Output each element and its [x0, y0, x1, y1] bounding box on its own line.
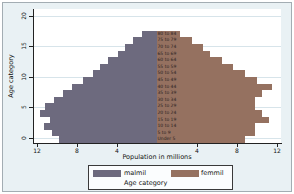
y-tick-label-5: 5 [20, 97, 28, 117]
age-category-label: 20 to 24 [158, 110, 177, 117]
legend-box: malmil femmil Age category [88, 165, 233, 190]
age-category-label: 55 to 59 [158, 64, 177, 71]
age-category-label: 50 to 54 [158, 70, 177, 77]
age-category-label: 65 to 69 [158, 51, 177, 58]
male-bar-20-to-24 [40, 110, 157, 117]
age-category-label: 15 to 19 [158, 117, 177, 124]
male-bar-65-to-69 [118, 51, 157, 58]
legend-swatch-femmil [171, 170, 199, 177]
y-tick-label-15: 15 [20, 36, 28, 56]
age-category-label: Under 5 [158, 136, 176, 143]
x-axis-line [33, 143, 282, 144]
legend-swatch-malmil [93, 170, 121, 177]
age-category-label: 35 to 39 [158, 90, 177, 97]
legend-label-femmil: femmil [201, 169, 224, 177]
male-bar-25-to-29 [45, 103, 157, 110]
x-axis-title: Population in millions [57, 153, 257, 161]
age-category-label: 10 to 14 [158, 123, 177, 130]
age-category-label: 45 to 49 [158, 77, 177, 84]
y-axis-line [33, 9, 34, 144]
population-pyramid-chart: Under 55 to 910 to 1415 to 1920 to 2425 … [0, 0, 294, 194]
female-bar-5-to-9 [157, 130, 255, 137]
age-category-label: 75 to 79 [158, 37, 177, 44]
age-category-label: 30 to 34 [158, 97, 177, 104]
y-tickmark-5 [29, 107, 33, 108]
age-category-label: 40 to 44 [158, 84, 177, 91]
male-bar-30-to-34 [54, 97, 157, 104]
male-bar-55-to-59 [100, 64, 157, 71]
age-category-label: 5 to 9 [158, 130, 171, 137]
male-bar-35-to-39 [63, 90, 157, 97]
male-bar-45-to-49 [83, 77, 157, 84]
y-tickmark-15 [29, 46, 33, 47]
y-axis-title: Age category [6, 46, 16, 106]
age-category-label: 80 to 84 [158, 31, 177, 38]
y-tick-label-0: 0 [20, 128, 28, 148]
male-bar-50-to-54 [93, 70, 157, 77]
y-tick-label-10: 10 [20, 67, 28, 87]
male-bar-15-to-19 [50, 117, 157, 124]
male-bar-80-to-84 [142, 31, 157, 38]
x-tick-label-right-12: 12 [267, 147, 287, 154]
y-tickmark-0 [29, 138, 33, 139]
y-tick-label-20: 20 [20, 6, 28, 26]
male-bar-under-5 [59, 136, 157, 143]
y-tickmark-20 [29, 16, 33, 17]
age-category-label: 60 to 64 [158, 57, 177, 64]
male-bar-70-to-74 [125, 44, 157, 51]
y-tickmark-10 [29, 77, 33, 78]
age-category-label: 70 to 74 [158, 44, 177, 51]
male-bar-40-to-44 [72, 84, 157, 91]
legend-note: Age category [124, 179, 167, 187]
age-category-label: 25 to 29 [158, 103, 177, 110]
male-bar-5-to-9 [52, 130, 157, 137]
gridline-y-20 [34, 16, 281, 17]
male-bar-75-to-79 [133, 37, 157, 44]
male-bar-60-to-64 [108, 57, 157, 64]
x-tick-label-left-12: 12 [27, 147, 47, 154]
male-bar-10-to-14 [44, 123, 157, 130]
legend-label-malmil: malmil [124, 169, 146, 177]
